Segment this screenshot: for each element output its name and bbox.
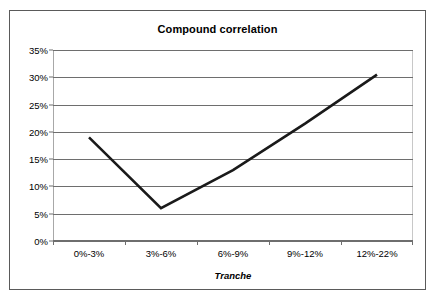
y-axis-tick-label: 25% xyxy=(29,99,48,110)
y-axis-tick-label: 10% xyxy=(29,181,48,192)
x-axis-tick-label: 0%-3% xyxy=(74,248,105,259)
x-axis-tick-mark xyxy=(269,241,270,245)
gridline xyxy=(53,241,413,242)
chart-frame: Compound correlation 0%5%10%15%20%25%30%… xyxy=(9,10,426,290)
y-axis-tick-label: 35% xyxy=(29,45,48,56)
y-axis-tick-label: 0% xyxy=(34,236,48,247)
chart-title: Compound correlation xyxy=(10,23,425,35)
y-axis-tick-label: 5% xyxy=(34,208,48,219)
x-axis-title: Tranche xyxy=(53,270,413,281)
data-series-line xyxy=(53,50,413,241)
y-axis-tick-label: 30% xyxy=(29,72,48,83)
y-axis-tick-label: 20% xyxy=(29,126,48,137)
x-axis-tick-mark xyxy=(412,241,413,245)
x-axis-tick-label: 3%-6% xyxy=(146,248,177,259)
x-axis-tick-label: 12%-22% xyxy=(356,248,397,259)
y-axis-tick-label: 15% xyxy=(29,154,48,165)
plot-area: 0%5%10%15%20%25%30%35% 0%-3%3%-6%6%-9%9%… xyxy=(53,50,413,241)
x-axis-tick-label: 6%-9% xyxy=(218,248,249,259)
x-axis-tick-mark xyxy=(53,241,54,245)
x-axis-tick-mark xyxy=(125,241,126,245)
x-axis-tick-mark xyxy=(341,241,342,245)
x-axis-tick-label: 9%-12% xyxy=(287,248,323,259)
x-axis-tick-mark xyxy=(197,241,198,245)
